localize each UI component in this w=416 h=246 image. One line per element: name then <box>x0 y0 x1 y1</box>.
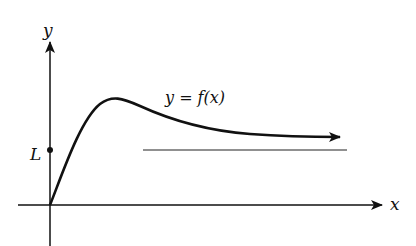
y-axis-label: y <box>42 20 53 40</box>
limit-point <box>47 147 53 153</box>
curve-label: y = f(x) <box>164 88 225 107</box>
limit-label: L <box>29 144 41 164</box>
function-curve <box>50 98 340 205</box>
x-axis-label: x <box>390 194 400 214</box>
limit-diagram: y x L y = f(x) <box>0 0 416 246</box>
